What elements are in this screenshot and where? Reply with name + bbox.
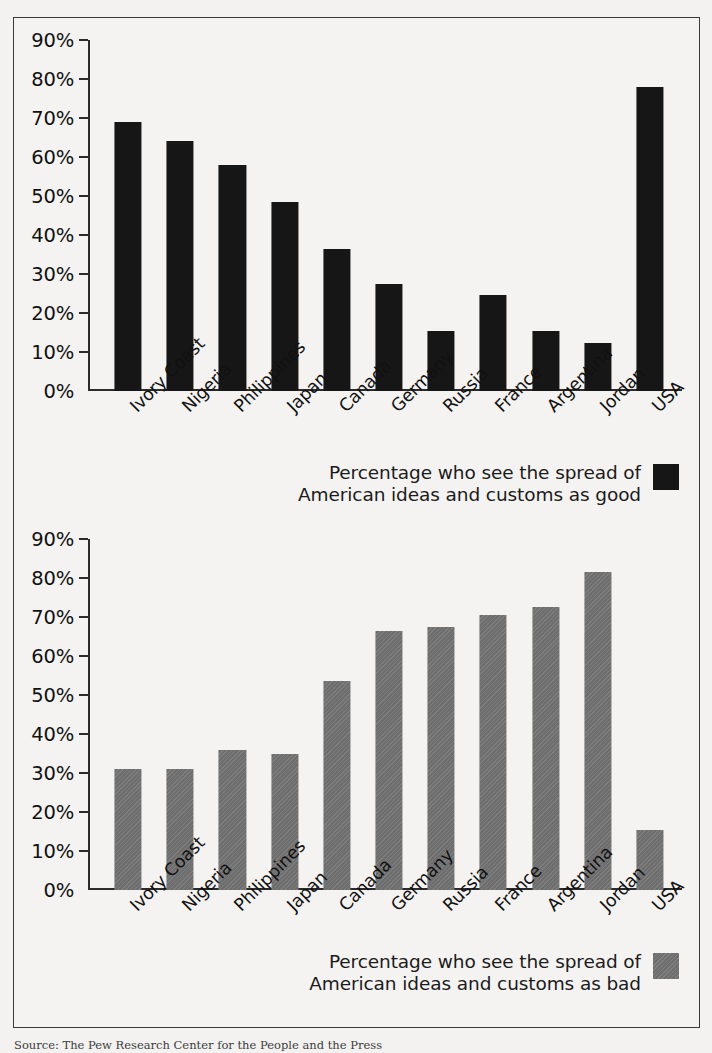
y-tick-label-70: 70% xyxy=(31,107,74,130)
bar-slot xyxy=(572,40,624,391)
source-note: Source: The Pew Research Center for the … xyxy=(14,1038,704,1052)
bar-slot xyxy=(102,40,154,391)
bar-canada xyxy=(323,681,350,890)
y-tick-80 xyxy=(79,78,88,80)
bar-philippines xyxy=(219,165,246,391)
y-tick-20 xyxy=(79,811,88,813)
y-tick-label-20: 20% xyxy=(31,801,74,824)
bar-slot xyxy=(206,40,258,391)
y-tick-40 xyxy=(79,733,88,735)
bar-argentina xyxy=(532,607,559,890)
plot-area-bad: 0%10%20%30%40%50%60%70%80%90% xyxy=(88,539,682,890)
bar-slot xyxy=(259,539,311,890)
figure-page: 0%10%20%30%40%50%60%70%80%90% Ivory Coas… xyxy=(0,0,712,1053)
bar-slot xyxy=(311,40,363,391)
bar-usa xyxy=(636,87,663,391)
bar-slot xyxy=(363,539,415,890)
legend-swatch-bad-icon xyxy=(653,953,679,979)
y-tick-50 xyxy=(79,195,88,197)
y-tick-label-10: 10% xyxy=(31,840,74,863)
y-tick-label-90: 90% xyxy=(31,29,74,52)
chart-panel-good: 0%10%20%30%40%50%60%70%80%90% Ivory Coas… xyxy=(14,26,699,481)
bar-jordan xyxy=(584,572,611,890)
y-tick-label-30: 30% xyxy=(31,762,74,785)
y-tick-label-20: 20% xyxy=(31,302,74,325)
bar-slot xyxy=(467,539,519,890)
bar-slot xyxy=(624,40,676,391)
plot-area-good: 0%10%20%30%40%50%60%70%80%90% xyxy=(88,40,682,391)
bar-slot xyxy=(206,539,258,890)
legend-line-1: Percentage who see the spread of xyxy=(298,462,641,484)
bar-slot xyxy=(415,40,467,391)
bar-canada xyxy=(323,249,350,391)
bar-series-good xyxy=(88,40,682,391)
bar-slot xyxy=(624,539,676,890)
y-tick-label-80: 80% xyxy=(31,68,74,91)
legend-line-2: American ideas and customs as good xyxy=(298,484,641,506)
y-tick-70 xyxy=(79,117,88,119)
bar-slot xyxy=(363,40,415,391)
y-tick-label-0: 0% xyxy=(43,380,74,403)
y-tick-10 xyxy=(79,351,88,353)
y-tick-70 xyxy=(79,616,88,618)
bar-slot xyxy=(415,539,467,890)
y-tick-30 xyxy=(79,273,88,275)
y-tick-60 xyxy=(79,655,88,657)
legend-bad: Percentage who see the spread ofAmerican… xyxy=(259,951,679,995)
bar-france xyxy=(480,615,507,890)
legend-line-2: American ideas and customs as bad xyxy=(309,973,641,995)
legend-label-bad: Percentage who see the spread ofAmerican… xyxy=(309,951,641,995)
legend-label-good: Percentage who see the spread ofAmerican… xyxy=(298,462,641,506)
figure-frame: 0%10%20%30%40%50%60%70%80%90% Ivory Coas… xyxy=(13,17,700,1028)
y-tick-label-90: 90% xyxy=(31,528,74,551)
bar-slot xyxy=(519,539,571,890)
bar-slot xyxy=(519,40,571,391)
bar-slot xyxy=(102,539,154,890)
y-tick-label-10: 10% xyxy=(31,341,74,364)
legend-line-1: Percentage who see the spread of xyxy=(309,951,641,973)
y-tick-50 xyxy=(79,694,88,696)
legend-swatch-good-icon xyxy=(653,464,679,490)
bar-slot xyxy=(259,40,311,391)
y-tick-label-30: 30% xyxy=(31,263,74,286)
y-tick-20 xyxy=(79,312,88,314)
y-tick-label-70: 70% xyxy=(31,606,74,629)
y-tick-90 xyxy=(79,538,88,540)
y-tick-label-60: 60% xyxy=(31,146,74,169)
y-tick-40 xyxy=(79,234,88,236)
y-tick-label-40: 40% xyxy=(31,224,74,247)
bar-series-bad xyxy=(88,539,682,890)
y-tick-label-40: 40% xyxy=(31,723,74,746)
y-tick-label-50: 50% xyxy=(31,185,74,208)
bar-ivory-coast xyxy=(115,769,142,890)
y-tick-30 xyxy=(79,772,88,774)
bar-slot xyxy=(572,539,624,890)
y-tick-label-80: 80% xyxy=(31,567,74,590)
chart-panel-bad: 0%10%20%30%40%50%60%70%80%90% Ivory Coas… xyxy=(14,525,699,1012)
y-tick-label-0: 0% xyxy=(43,879,74,902)
bar-germany xyxy=(375,631,402,890)
y-tick-label-50: 50% xyxy=(31,684,74,707)
y-tick-90 xyxy=(79,39,88,41)
bar-slot xyxy=(311,539,363,890)
y-tick-80 xyxy=(79,577,88,579)
bar-slot xyxy=(467,40,519,391)
y-tick-60 xyxy=(79,156,88,158)
legend-good: Percentage who see the spread ofAmerican… xyxy=(259,462,679,506)
y-tick-label-60: 60% xyxy=(31,645,74,668)
y-tick-10 xyxy=(79,850,88,852)
bar-ivory-coast xyxy=(115,122,142,391)
